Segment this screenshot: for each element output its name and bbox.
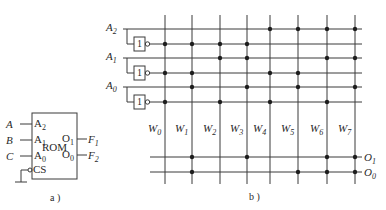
word-line-label-w0: W0 bbox=[148, 123, 161, 138]
connection-dot bbox=[163, 71, 167, 75]
output-label-o0: O0 bbox=[364, 167, 376, 182]
rom-pin-o0: O0 bbox=[62, 149, 74, 164]
connection-dot bbox=[245, 56, 249, 60]
connection-dot bbox=[296, 170, 300, 174]
connection-dot bbox=[325, 170, 329, 174]
connection-dot bbox=[353, 27, 357, 31]
cs-inversion-bubble bbox=[28, 168, 32, 172]
rom-array bbox=[123, 15, 362, 184]
word-line-label-w3: W3 bbox=[230, 123, 243, 138]
address-label-a2: A2 bbox=[106, 22, 117, 37]
connection-dot bbox=[353, 155, 357, 159]
connection-dot bbox=[325, 100, 329, 104]
inverter-label: 1 bbox=[137, 67, 142, 78]
connection-dot bbox=[190, 155, 194, 159]
rom-output-f2: F2 bbox=[88, 150, 99, 165]
connection-dot bbox=[325, 27, 329, 31]
connection-dot bbox=[190, 85, 194, 89]
word-line-label-w2: W2 bbox=[203, 123, 216, 138]
rom-diagram-canvas bbox=[0, 0, 386, 210]
caption-b: b ) bbox=[249, 191, 260, 202]
word-line-label-w1: W1 bbox=[175, 123, 188, 138]
connection-dot bbox=[218, 100, 222, 104]
connection-dot bbox=[190, 71, 194, 75]
connection-dot bbox=[296, 85, 300, 89]
connection-dot bbox=[296, 71, 300, 75]
inverter-bubble bbox=[145, 100, 149, 104]
connection-dot bbox=[218, 42, 222, 46]
connection-dot bbox=[268, 71, 272, 75]
connection-dot bbox=[163, 42, 167, 46]
rom-output-f1: F1 bbox=[88, 134, 99, 149]
connection-dot bbox=[325, 56, 329, 60]
connection-dot bbox=[353, 170, 357, 174]
address-label-a0: A0 bbox=[106, 80, 117, 95]
connection-dot bbox=[218, 56, 222, 60]
inverter-label: 1 bbox=[137, 38, 142, 49]
word-line-label-w6: W6 bbox=[310, 123, 323, 138]
connection-dot bbox=[190, 170, 194, 174]
connection-dot bbox=[245, 155, 249, 159]
word-line-label-w5: W5 bbox=[281, 123, 294, 138]
connection-dot bbox=[325, 155, 329, 159]
word-line-label-w7: W7 bbox=[338, 123, 351, 138]
connection-dot bbox=[245, 85, 249, 89]
connection-dot bbox=[353, 85, 357, 89]
caption-a: a ) bbox=[50, 192, 60, 203]
inverter-bubble bbox=[145, 42, 149, 46]
rom-pin-a2: A2 bbox=[34, 118, 46, 133]
connection-dot bbox=[296, 27, 300, 31]
rom-input-signal-a: A bbox=[6, 119, 13, 130]
rom-input-signal-b: B bbox=[6, 135, 13, 146]
rom-input-signal-c: C bbox=[6, 151, 13, 162]
connection-dot bbox=[353, 56, 357, 60]
connection-dot bbox=[268, 27, 272, 31]
rom-pin-cs: CS bbox=[33, 164, 46, 175]
connection-dot bbox=[245, 42, 249, 46]
output-label-o1: O1 bbox=[364, 152, 376, 167]
word-line-label-w4: W4 bbox=[253, 123, 266, 138]
inverter-bubble bbox=[145, 71, 149, 75]
inverter-label: 1 bbox=[137, 96, 142, 107]
connection-dot bbox=[163, 100, 167, 104]
rom-pin-o1: O1 bbox=[62, 133, 74, 148]
connection-dot bbox=[268, 100, 272, 104]
connection-dot bbox=[190, 42, 194, 46]
address-label-a1: A1 bbox=[106, 51, 117, 66]
